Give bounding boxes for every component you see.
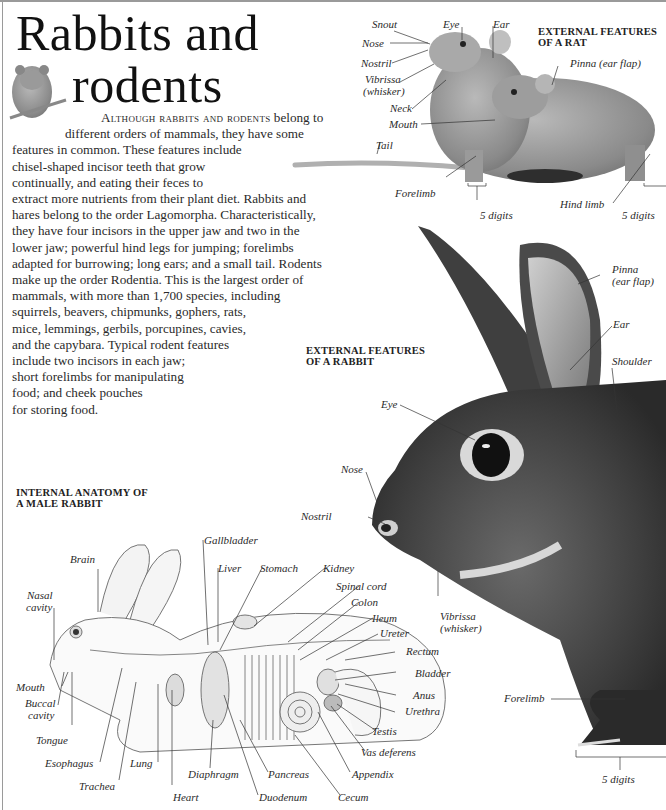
illustrations [0,0,666,810]
anatomy-label-anus: Anus [413,689,435,701]
rabbit-label-pinna: Pinna [612,263,638,275]
anatomy-label-diaphragm: Diaphragm [188,768,239,780]
rat-photo-illustration [295,30,655,183]
intro-line: adapted for burrowing; long ears; and a … [12,256,322,272]
rabbit-label-nose: Nose [341,463,363,475]
anatomy-label-colon: Colon [351,596,378,608]
rat-label-digits-hind: 5 digits [622,209,655,221]
anatomy-label-brain: Brain [70,553,95,565]
rat-thumbnail-illustration [10,65,66,118]
rabbit-label-forelimb: Forelimb [504,692,545,704]
anatomy-label-trachea: Trachea [79,780,115,792]
rabbit-label-ear: Ear [613,318,630,330]
rabbit-label-eye: Eye [381,398,397,410]
intro-line: continually, and eating their feces to [12,175,203,191]
intro-line: extract more nutrients from their plant … [12,191,306,207]
anatomy-label-buccal-cavity: cavity [28,709,54,721]
anatomy-label-nasal: Nasal [27,589,53,601]
intro-line: and the capybara. Typical rodent feature… [12,337,229,353]
intro-line: short forelimbs for manipulating [12,369,184,385]
intro-line: hares belong to the order Lagomorpha. Ch… [12,207,316,223]
anatomy-label-kidney: Kidney [323,562,354,574]
intro-line: for storing food. [12,402,98,418]
anatomy-label-gallbladder: Gallbladder [204,534,258,546]
anatomy-label-pancreas: Pancreas [268,768,309,780]
rabbit-label-vibrissa: Vibrissa [440,610,476,622]
rabbit-label-shoulder: Shoulder [612,355,652,367]
rabbit-external-heading: EXTERNAL FEATURES OF A RABBIT [306,345,425,367]
anatomy-label-cecum: Cecum [338,791,369,803]
anatomy-label-ureter: Ureter [380,627,409,639]
rabbit-label-digits: 5 digits [602,773,635,785]
intro-line: they have four incisors in the upper jaw… [12,223,300,239]
anatomy-label-urethra: Urethra [405,705,440,717]
rat-label-digits-front: 5 digits [480,209,513,221]
intro-line: food; and cheek pouches [12,385,143,401]
anatomy-label-buccal: Buccal [25,697,56,709]
page-title-line-2: rodents [72,60,223,110]
rat-label-neck: Neck [390,102,412,114]
anatomy-label-rectum: Rectum [406,645,439,657]
rat-label-pinna: Pinna (ear flap) [570,57,641,69]
intro-lead-smallcaps: Although rabbits and rodents [101,110,271,125]
rat-label-nostril: Nostril [361,57,392,69]
anatomy-label-vas-deferens: Vas deferens [361,746,416,758]
intro-line: Although rabbits and rodents belong to [101,110,323,126]
intro-line: include two incisors in each jaw; [12,353,185,369]
rat-label-vibrissa: Vibrissa [365,73,401,85]
rabbit-label-nostril: Nostril [301,510,332,522]
anatomy-label-lung: Lung [130,757,153,769]
anatomy-label-nasal-cavity: cavity [26,601,52,613]
rat-label-tail: Tail [376,139,393,151]
intro-line: chisel-shaped incisor teeth that grow [12,159,205,175]
anatomy-label-mouth: Mouth [16,681,45,693]
rat-label-whisker: (whisker) [363,85,405,97]
rat-label-snout: Snout [372,18,397,30]
anatomy-label-liver: Liver [218,562,241,574]
rabbit-label-whisker: (whisker) [440,622,482,634]
anatomy-label-tongue: Tongue [36,734,68,746]
rat-label-nose: Nose [362,37,384,49]
rat-label-forelimb: Forelimb [395,187,436,199]
intro-line: mammals, with more than 1,700 species, i… [12,288,280,304]
page-title-line-1: Rabbits and [16,8,259,58]
anatomy-label-bladder: Bladder [415,667,450,679]
anatomy-label-spinal-cord: Spinal cord [336,580,387,592]
intro-line: different orders of mammals, they have s… [65,126,304,142]
intro-line: squirrels, beavers, chipmunks, gophers, … [12,304,246,320]
rabbit-internal-heading: INTERNAL ANATOMY OF A MALE RABBIT [16,487,148,509]
rat-label-mouth: Mouth [389,118,418,130]
anatomy-label-testis: Testis [372,725,397,737]
rabbit-label-ear-flap: (ear flap) [612,275,654,287]
anatomy-label-heart: Heart [173,791,199,803]
anatomy-label-stomach: Stomach [260,562,298,574]
anatomy-label-ileum: Ileum [372,612,397,624]
rat-section-heading: EXTERNAL FEATURES OF A RAT [538,26,657,48]
rat-label-hind-limb: Hind limb [560,198,604,210]
anatomy-label-duodenum: Duodenum [259,791,307,803]
intro-line: mice, lemmings, gerbils, porcupines, cav… [12,321,246,337]
anatomy-label-appendix: Appendix [352,768,394,780]
anatomy-label-esophagus: Esophagus [45,757,93,769]
rat-label-ear: Ear [493,18,510,30]
rat-label-eye: Eye [443,18,459,30]
intro-line: make up the order Rodentia. This is the … [12,272,303,288]
intro-line: features in common. These features inclu… [12,142,242,158]
intro-line: lower jaw; powerful hind legs for jumpin… [12,240,294,256]
